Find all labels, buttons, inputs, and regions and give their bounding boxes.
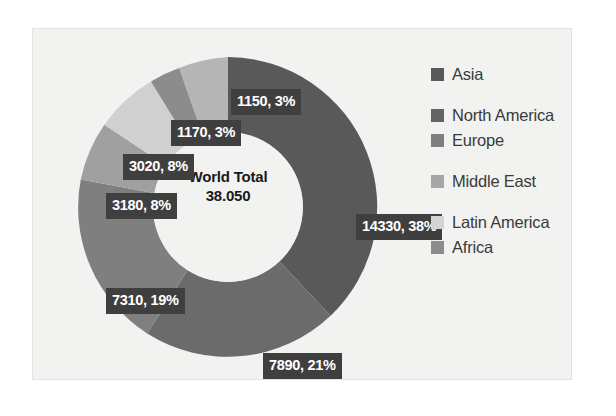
legend-item-middle-east[interactable]: Middle East: [431, 170, 566, 193]
data-label-latin-america: 3020, 8%: [123, 154, 194, 180]
legend-swatch-icon-north-america: [431, 109, 444, 122]
legend-swatch-icon-latin-america: [431, 216, 444, 229]
legend-item-latin-america[interactable]: Latin America: [431, 211, 566, 234]
chart-frame: World Total 38.050 14330, 38% 7890, 21% …: [32, 28, 572, 380]
legend-swatch-icon-middle-east: [431, 175, 444, 188]
data-label-other: 1150, 3%: [231, 89, 301, 115]
legend-label-middle-east: Middle East: [452, 170, 536, 193]
legend-item-europe[interactable]: Europe: [431, 129, 566, 152]
legend-label-africa: Africa: [452, 236, 493, 259]
donut-chart: World Total 38.050 14330, 38% 7890, 21% …: [78, 57, 378, 357]
legend-item-north-america[interactable]: North America: [431, 104, 566, 127]
data-label-north-america: 7890, 21%: [263, 353, 342, 379]
legend-label-asia: Asia: [452, 63, 483, 86]
data-label-africa: 1170, 3%: [171, 120, 241, 146]
chart-legend: Asia North America Europe Middle East La…: [431, 63, 566, 261]
legend-item-asia[interactable]: Asia: [431, 63, 566, 86]
legend-label-europe: Europe: [452, 129, 504, 152]
legend-item-africa[interactable]: Africa: [431, 236, 566, 259]
data-label-europe: 7310, 19%: [106, 288, 185, 314]
data-label-middle-east: 3180, 8%: [106, 193, 177, 219]
data-label-asia: 14330, 38%: [356, 214, 442, 240]
legend-label-north-america: North America: [452, 104, 554, 127]
legend-swatch-icon-europe: [431, 134, 444, 147]
legend-swatch-icon-africa: [431, 241, 444, 254]
legend-label-latin-america: Latin America: [452, 211, 549, 234]
legend-swatch-icon-asia: [431, 68, 444, 81]
